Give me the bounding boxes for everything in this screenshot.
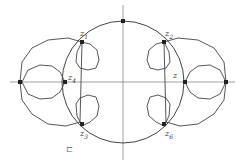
point-z6 <box>162 122 166 126</box>
point-far-left <box>18 80 22 84</box>
point-z1 <box>80 40 84 44</box>
label-z2: z2 <box>165 30 173 40</box>
petal-upper-left <box>76 42 99 70</box>
label-z3: z3 <box>80 130 88 140</box>
bottom-mark: ⊏ <box>66 146 73 154</box>
point-z4 <box>63 80 67 84</box>
label-z4: z4 <box>68 74 76 84</box>
point-top <box>121 19 125 23</box>
petal-lower-right <box>147 95 170 126</box>
point-z3 <box>80 122 84 126</box>
label-z1: z1 <box>80 30 88 40</box>
label-z6: z6 <box>165 130 173 140</box>
petal-upper-right <box>147 42 170 70</box>
label-z: z <box>173 72 177 82</box>
petal-lower-left <box>76 95 99 126</box>
point-z <box>183 80 187 84</box>
diagram-canvas <box>0 0 240 164</box>
point-far-right <box>224 80 228 84</box>
point-z2 <box>162 40 166 44</box>
